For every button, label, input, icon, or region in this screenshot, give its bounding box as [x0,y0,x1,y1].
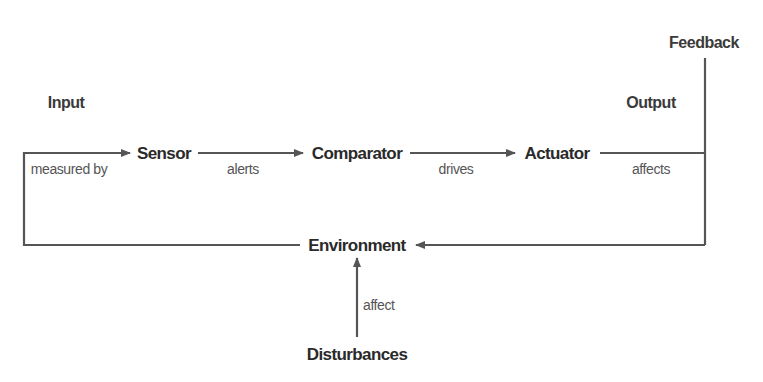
node-disturbances: Disturbances [307,346,408,363]
node-comparator: Comparator [312,145,402,162]
edge-label-affects: affects [632,162,670,176]
control-loop-diagram [0,0,763,382]
edge-label-drives: drives [439,162,474,176]
section-label-input: Input [48,95,85,111]
node-environment: Environment [308,237,405,254]
edge-label-measured-by: measured by [31,162,108,176]
section-label-feedback: Feedback [669,35,739,51]
section-label-output: Output [626,95,675,111]
edge-label-alerts: alerts [227,162,259,176]
edge-label-affect: affect [363,298,395,312]
node-actuator: Actuator [524,145,589,162]
node-sensor: Sensor [137,145,191,162]
